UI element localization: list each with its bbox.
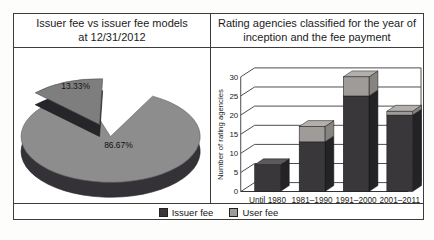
user-fee-swatch-icon bbox=[229, 208, 238, 217]
stacked-bar-chart: 051015202530Until 19801981–19901991–2000… bbox=[211, 48, 423, 203]
svg-text:1981–1990: 1981–1990 bbox=[291, 196, 333, 203]
legend-label-issuer: Issuer fee bbox=[172, 207, 214, 218]
y-axis-title: Number of rating agencies bbox=[216, 89, 225, 180]
legend-item-user-fee: User fee bbox=[229, 207, 278, 218]
issuer-fee-swatch-icon bbox=[159, 208, 168, 217]
svg-text:0: 0 bbox=[234, 187, 239, 196]
svg-text:13.33%: 13.33% bbox=[61, 81, 90, 91]
pie-title-line1: Issuer fee vs issuer fee models bbox=[36, 17, 188, 31]
pie-chart: 13.33%86.67% bbox=[14, 48, 210, 203]
figure: Issuer fee vs issuer fee models at 12/31… bbox=[0, 0, 434, 240]
bar-title-line2: inception and the fee payment bbox=[243, 31, 390, 45]
svg-text:5: 5 bbox=[234, 168, 239, 177]
pie-chart-title: Issuer fee vs issuer fee models at 12/31… bbox=[14, 14, 211, 48]
legend: Issuer fee User fee bbox=[14, 203, 423, 221]
bar-chart-area: 051015202530Until 19801981–19901991–2000… bbox=[211, 48, 423, 203]
svg-text:1991–2000: 1991–2000 bbox=[336, 196, 378, 203]
legend-label-user: User fee bbox=[242, 207, 278, 218]
svg-text:10: 10 bbox=[229, 149, 238, 158]
pie-title-line2: at 12/31/2012 bbox=[78, 31, 145, 45]
pie-chart-area: 13.33%86.67% bbox=[14, 48, 211, 203]
svg-text:Until 1980: Until 1980 bbox=[249, 196, 286, 203]
svg-text:2001–2011: 2001–2011 bbox=[379, 196, 420, 203]
svg-text:25: 25 bbox=[229, 92, 238, 101]
svg-text:15: 15 bbox=[229, 130, 238, 139]
svg-text:86.67%: 86.67% bbox=[104, 140, 133, 150]
bar-chart-title: Rating agencies classified for the year … bbox=[211, 14, 423, 48]
svg-text:20: 20 bbox=[229, 111, 238, 120]
svg-text:30: 30 bbox=[229, 73, 238, 82]
legend-item-issuer-fee: Issuer fee bbox=[159, 207, 214, 218]
figure-frame: Issuer fee vs issuer fee models at 12/31… bbox=[13, 13, 424, 220]
bar-title-line1: Rating agencies classified for the year … bbox=[218, 17, 416, 31]
